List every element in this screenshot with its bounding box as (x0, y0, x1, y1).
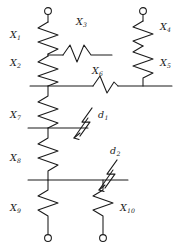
label-X5: X5 (160, 58, 171, 68)
branch-X9 (38, 180, 58, 234)
label-X8: X8 (10, 153, 21, 163)
lightning-bolt-d2-icon (105, 160, 117, 188)
branch-X4 (133, 21, 153, 46)
label-X2: X2 (10, 58, 21, 68)
label-X6: X6 (92, 66, 103, 76)
branch-X5 (133, 46, 153, 86)
label-X1: X1 (10, 30, 21, 40)
terminal-top-right (140, 8, 147, 15)
label-d1: d1 (98, 110, 108, 120)
branch-X6 (93, 76, 118, 93)
terminal-bottom-left (45, 235, 52, 242)
lightning-bolt-d1-icon (80, 108, 92, 136)
circuit-diagram: X1 X2 X3 X4 X5 X6 X7 X8 X9 X10 d1 d2 (0, 0, 182, 250)
label-X3: X3 (76, 17, 87, 27)
branch-X10 (93, 180, 113, 234)
branch-X8 (38, 128, 58, 180)
branch-X2 (38, 56, 58, 86)
label-d2: d2 (110, 146, 120, 156)
terminal-top-left (45, 8, 52, 15)
branch-X7 (38, 86, 58, 128)
terminal-bottom-right (100, 235, 107, 242)
label-X4: X4 (160, 22, 171, 32)
label-X7: X7 (10, 110, 21, 120)
branch-X1 (38, 22, 58, 54)
label-X9: X9 (10, 203, 21, 213)
label-X10: X10 (120, 203, 135, 213)
circuit-schematic-svg (0, 0, 182, 250)
branch-X3 (63, 45, 112, 62)
